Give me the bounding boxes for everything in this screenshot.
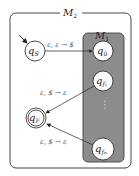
state-qf1: qf₁ [93,71,113,91]
pda-diagram: M2 M1 ε, ε → $ ε, $ → ε ε, $ → ε qS q0 q… [0,0,139,176]
m1-label: M1 [94,30,109,42]
state-qf-accepting: qF [26,108,46,128]
transition-label-pop-m: ε, $ → ε [40,138,67,146]
ellipsis-dots: ⋮ [100,99,110,110]
initial-arrow [19,35,27,43]
state-q0: q0 [93,41,113,61]
state-qs: qS [25,41,45,61]
transition-label-push: ε, ε → $ [47,41,74,49]
transition-label-pop-1: ε, $ → ε [40,89,67,97]
state-qfm: qfₘ [92,138,114,160]
